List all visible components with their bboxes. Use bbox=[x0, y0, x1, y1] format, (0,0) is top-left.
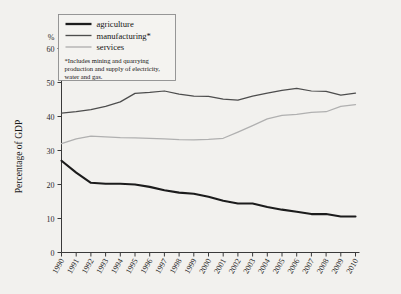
y-axis-tick-label: 40 bbox=[47, 113, 55, 122]
series-line-services bbox=[62, 105, 356, 144]
y-axis-title: Percentage of GDP bbox=[14, 120, 24, 193]
y-axis-tick-label: 0 bbox=[51, 249, 55, 258]
legend-footnote-line: water and gas. bbox=[65, 73, 103, 80]
x-axis-tick-label: 1996 bbox=[139, 257, 155, 275]
x-axis-tick-label: 1999 bbox=[183, 257, 199, 275]
x-axis-tick-label: 2002 bbox=[227, 257, 243, 275]
x-axis-tick-label: 1990 bbox=[50, 257, 66, 275]
x-axis-tick-label: 2007 bbox=[300, 257, 316, 275]
x-axis-tick-label: 1994 bbox=[109, 257, 125, 275]
series-line-manufacturing bbox=[62, 88, 356, 113]
x-axis-tick-label: 2006 bbox=[286, 257, 302, 275]
x-axis-tick-label: 1992 bbox=[80, 257, 96, 275]
y-axis-tick-label: 10 bbox=[47, 215, 55, 224]
x-axis-tick-label: 2001 bbox=[212, 257, 228, 275]
x-axis-tick-label: 1998 bbox=[168, 257, 184, 275]
series-line-agriculture bbox=[62, 161, 356, 217]
legend-footnote-line: production and supply of electricity, bbox=[65, 65, 161, 72]
x-axis-tick-label: 2010 bbox=[344, 257, 360, 275]
x-axis-tick-label: 2004 bbox=[256, 257, 272, 275]
legend-label-services: services bbox=[97, 42, 125, 52]
x-axis-tick-label: 1997 bbox=[153, 257, 169, 275]
chart-figure: 0102030405060%19901991199219931994199519… bbox=[0, 0, 401, 294]
percent-symbol-label: % bbox=[48, 33, 55, 42]
x-axis-tick-label: 2003 bbox=[242, 257, 258, 275]
legend-label-manufacturing: manufacturing* bbox=[97, 31, 151, 41]
x-axis-tick-label: 2009 bbox=[330, 257, 346, 275]
y-axis-tick-label: 20 bbox=[47, 181, 55, 190]
gdp-line-chart: 0102030405060%19901991199219931994199519… bbox=[0, 0, 401, 294]
chart-series-lines bbox=[62, 88, 356, 216]
x-axis-tick-label: 2000 bbox=[197, 257, 213, 275]
x-axis-tick-label: 1995 bbox=[124, 257, 140, 275]
chart-legend: agriculturemanufacturing*services*Includ… bbox=[59, 15, 176, 81]
legend-label-agriculture: agriculture bbox=[97, 19, 134, 29]
x-axis-tick-label: 1993 bbox=[95, 257, 111, 275]
y-axis-tick-label: 50 bbox=[47, 79, 55, 88]
x-axis-tick-label: 2008 bbox=[315, 257, 331, 275]
y-axis-tick-label: 60 bbox=[47, 45, 55, 54]
x-axis-tick-label: 2005 bbox=[271, 257, 287, 275]
y-axis-tick-label: 30 bbox=[47, 147, 55, 156]
legend-footnote-line: *Includes mining and quarrying bbox=[65, 57, 150, 64]
x-axis-tick-label: 1991 bbox=[65, 257, 81, 275]
